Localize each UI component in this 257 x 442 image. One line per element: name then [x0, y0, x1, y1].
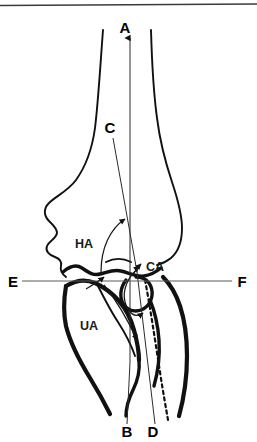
humerus-medial-outline	[45, 30, 103, 277]
axis-label-C: C	[105, 119, 116, 136]
ulna-proximal-border	[66, 281, 139, 360]
olecranon-fossa-line	[106, 259, 131, 262]
axis-line-C	[113, 138, 137, 272]
ulna-shaft-medial-border	[64, 286, 110, 414]
page-top-rule	[0, 4, 257, 6]
humerus-lateral-outline	[151, 30, 182, 265]
angle-arc-HA	[101, 219, 125, 272]
axis-label-F: F	[237, 273, 246, 290]
axis-line-B	[127, 362, 130, 424]
axis-label-E: E	[8, 273, 18, 290]
elbow-diagram-figure: A B C D E F HA CA UA	[0, 0, 257, 442]
radius-lateral-border	[163, 277, 187, 416]
diagram-canvas: A B C D E F HA CA UA	[0, 0, 257, 442]
dashed-forearm-axis	[145, 280, 168, 420]
angle-label-HA: HA	[75, 237, 93, 251]
axis-label-A: A	[120, 19, 131, 36]
axis-label-D: D	[148, 423, 159, 440]
axis-label-B: B	[122, 423, 133, 440]
angle-label-CA: CA	[146, 260, 164, 274]
angle-label-UA: UA	[80, 319, 98, 333]
